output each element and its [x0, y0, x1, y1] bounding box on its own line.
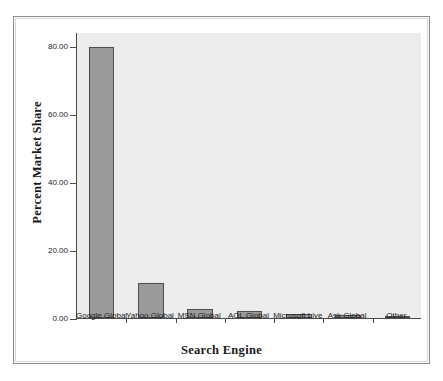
x-axis-category-label: Ask Global: [322, 311, 371, 320]
plot-area: 0.0020.0040.0060.0080.00: [76, 33, 421, 319]
y-axis-tick-label: 40.00: [48, 178, 68, 187]
bar-slot: [373, 33, 422, 318]
x-axis-category-label: MSN Global: [175, 311, 224, 320]
x-axis-category-label: Yahoo Global: [125, 311, 174, 320]
x-axis-title: Search Engine: [14, 343, 429, 358]
y-axis-tick: 20.00: [70, 251, 77, 252]
x-axis-category-label: Microsoft Live: [273, 311, 322, 320]
x-axis-category-label: AOL Global: [224, 311, 273, 320]
bar-slot: [126, 33, 175, 318]
bar-slot: [274, 33, 323, 318]
y-axis-tick-label: 60.00: [48, 110, 68, 119]
bar-slot: [176, 33, 225, 318]
bar: [89, 47, 115, 318]
bar-slot: [77, 33, 126, 318]
x-axis-category-label: Google Global: [76, 311, 125, 320]
y-axis-tick: 40.00: [70, 183, 77, 184]
bar-slot: [225, 33, 274, 318]
bar-slot: [323, 33, 372, 318]
y-axis-tick: 60.00: [70, 115, 77, 116]
y-axis-title: Percent Market Share: [30, 78, 45, 248]
y-axis-tick-label: 0.00: [52, 314, 68, 323]
bars-container: [77, 33, 421, 318]
y-axis-tick: 80.00: [70, 47, 77, 48]
chart-figure: Percent Market Share 0.0020.0040.0060.00…: [13, 16, 430, 364]
x-axis-category-label: Other: [372, 311, 421, 320]
y-axis-tick-label: 80.00: [48, 42, 68, 51]
y-axis-tick-label: 20.00: [48, 246, 68, 255]
